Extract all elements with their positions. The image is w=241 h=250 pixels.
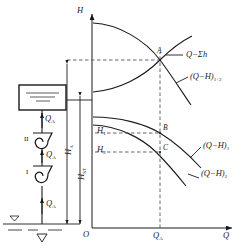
leader-pump-2-curve [188,174,199,178]
flow-label-upper-sub: A [51,119,55,124]
diagram-vector-layer [0,0,241,250]
water-surface-triangle [10,216,19,221]
curve-label-pump-1-text: (Q−H) [203,140,227,150]
point-A-dot [159,59,161,61]
dimension-HST-sub: ST [82,168,87,174]
curve-label-pump-2-sub: 2 [225,174,228,179]
dimension-HA-symbol: H [63,149,73,155]
x-tick-label-QA: QA [153,231,163,240]
discharge-reservoir-tank [19,85,66,110]
construction-dashed-lines [67,52,160,228]
flow-label-lower: QA [46,199,56,208]
axes [92,14,232,228]
foot-valve-strainer [37,234,47,242]
point-label-A: A [157,47,162,55]
flow-label-middle: QA [46,150,56,159]
flow-label-upper: QA [45,114,55,123]
curve-pump-series [93,23,191,105]
dimension-HA-sub: A [69,145,74,149]
dimension-label-HA: HA [64,145,73,155]
pump-II-symbol [33,133,52,149]
curve-label-system-text: Q−Σh [186,49,207,59]
figure-canvas: H Q O QA A B C Q−Σh (Q−H)1+2 (Q−H)1 (Q−H… [0,0,241,250]
curve-label-system: Q−Σh [186,50,207,59]
dimension-HST-symbol: H [76,174,86,180]
dimension-lines [67,64,80,224]
characteristic-curves [93,23,201,186]
point-B-dot [159,132,161,134]
head-level-H1-sub: 1 [103,131,106,136]
y-axis-label: H [77,6,83,15]
dimension-label-HST: HST [77,168,86,180]
curve-label-pump-series: (Q−H)1+2 [190,72,222,81]
flow-label-middle-sub: A [52,155,56,160]
pipeline-schematic [3,85,92,242]
curve-pump-2 [93,125,186,186]
flow-label-lower-sub: A [52,204,56,209]
leader-pump-1-curve [190,147,201,158]
pump-label-I: I [26,169,28,176]
curve-label-pump-2: (Q−H)2 [201,169,227,178]
head-level-label-H1: H1 [97,126,106,135]
x-axis-label: Q [223,231,229,240]
point-label-C: C [163,144,168,152]
curve-label-pump-1: (Q−H)1 [203,141,229,150]
curve-label-pump-1-sub: 1 [227,146,230,151]
point-C-dot [159,151,161,153]
origin-label: O [83,230,89,239]
curve-label-pump-series-sub: 1+2 [214,77,222,82]
curve-label-pump-series-text: (Q−H) [190,71,214,81]
x-tick-subscript: A [159,236,163,241]
leader-pump-series-curve [176,77,188,83]
point-label-B: B [163,124,168,132]
head-level-label-H2: H2 [97,145,106,154]
head-level-H2-sub: 2 [103,150,106,155]
curve-label-pump-2-text: (Q−H) [201,168,225,178]
pump-label-II: II [24,136,29,143]
pump-I-symbol [33,166,52,183]
curve-pump-1 [93,117,201,168]
